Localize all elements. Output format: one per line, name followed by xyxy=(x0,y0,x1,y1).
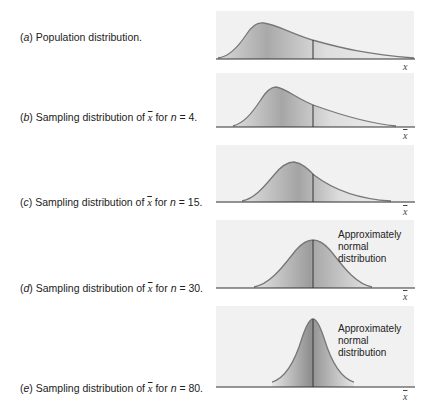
panel-c-label: (c) Sampling distribution of x for n = 1… xyxy=(20,196,202,208)
panel-e-axis-label: x xyxy=(403,391,407,402)
panel-e-label: (e) Sampling distribution of x for n = 8… xyxy=(20,382,203,394)
panel-b-curve xyxy=(216,73,416,131)
panel-a-axis-label: x xyxy=(403,61,407,72)
panel-a-curve xyxy=(216,11,416,63)
panel-d-label: (d) Sampling distribution of x for n = 3… xyxy=(20,282,203,294)
panel-b-axis-label: x xyxy=(403,130,407,141)
panel-d-note: Approximately normal distribution xyxy=(338,229,401,265)
panel-d-axis-label: x xyxy=(403,291,407,302)
panel-b-label: (b) Sampling distribution of x for n = 4… xyxy=(20,111,197,123)
panel-a-label: (a) Population distribution. xyxy=(20,31,142,43)
panel-c-axis-label: x xyxy=(403,206,407,217)
panel-e-note: Approximately normal distribution xyxy=(338,323,401,359)
panel-c-curve xyxy=(216,145,416,207)
